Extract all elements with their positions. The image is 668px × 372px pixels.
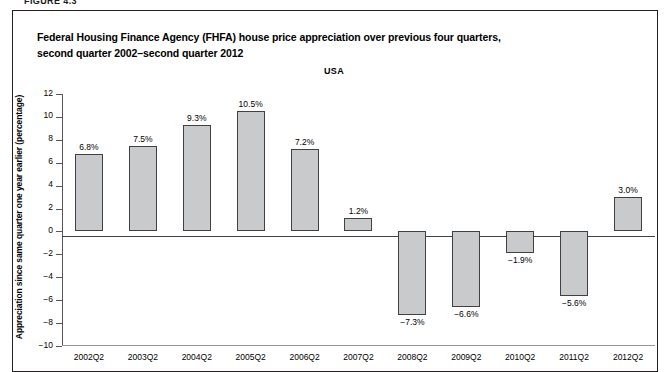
bar-slot: −6.6%2009Q2 <box>439 94 493 346</box>
y-tick: 12 <box>56 94 62 95</box>
y-tick: 8 <box>56 140 62 141</box>
bar-slot: 1.2%2007Q2 <box>332 94 386 346</box>
y-tick: 0 <box>56 231 62 232</box>
x-tick-label: 2009Q2 <box>451 352 481 362</box>
bar-slot: −1.9%2010Q2 <box>493 94 547 346</box>
y-tick: −4 <box>56 277 62 278</box>
bar-value-label: 1.2% <box>349 206 368 216</box>
bar[interactable] <box>75 154 103 232</box>
bar-value-label: −1.9% <box>508 255 532 265</box>
chart-title-line2: second quarter 2002–second quarter 2012 <box>37 46 557 62</box>
y-tick: 2 <box>56 209 62 210</box>
y-tick-label: 0 <box>48 225 53 235</box>
bar-slot: 7.2%2006Q2 <box>278 94 332 346</box>
bar[interactable] <box>506 231 534 253</box>
bar[interactable] <box>560 231 588 295</box>
y-tick: 4 <box>56 186 62 187</box>
y-tick-label: −10 <box>39 340 53 350</box>
y-tick: −10 <box>56 346 62 347</box>
bar-value-label: 9.3% <box>187 113 206 123</box>
y-tick: −6 <box>56 300 62 301</box>
bar[interactable] <box>237 111 265 231</box>
bar[interactable] <box>129 146 157 232</box>
series-label-usa: USA <box>0 66 668 76</box>
y-tick-label: −6 <box>43 294 53 304</box>
x-tick-label: 2002Q2 <box>74 352 104 362</box>
bar-value-label: −5.6% <box>562 298 586 308</box>
bar-slot: 3.0%2012Q2 <box>601 94 655 346</box>
bar-value-label: 7.2% <box>295 137 314 147</box>
x-tick-label: 2007Q2 <box>343 352 373 362</box>
x-tick-label: 2004Q2 <box>182 352 212 362</box>
y-tick-label: 2 <box>48 202 53 212</box>
x-tick-label: 2012Q2 <box>613 352 643 362</box>
bar-slot: 6.8%2002Q2 <box>62 94 116 346</box>
chart-title: Federal Housing Finance Agency (FHFA) ho… <box>37 30 557 61</box>
bars-container: 6.8%2002Q27.5%2003Q29.3%2004Q210.5%2005Q… <box>62 94 655 346</box>
bar[interactable] <box>291 149 319 231</box>
x-tick-label: 2008Q2 <box>397 352 427 362</box>
plot-area: 6.8%2002Q27.5%2003Q29.3%2004Q210.5%2005Q… <box>62 94 655 346</box>
bar-slot: 10.5%2005Q2 <box>224 94 278 346</box>
bar-slot: 9.3%2004Q2 <box>170 94 224 346</box>
y-tick: 10 <box>56 117 62 118</box>
x-tick-label: 2003Q2 <box>128 352 158 362</box>
y-tick-label: 6 <box>48 156 53 166</box>
x-tick-label: 2005Q2 <box>236 352 266 362</box>
y-tick-label: −8 <box>43 317 53 327</box>
bar-value-label: 10.5% <box>239 99 263 109</box>
y-tick-label: −2 <box>43 248 53 258</box>
y-tick: −8 <box>56 323 62 324</box>
bar[interactable] <box>344 218 372 232</box>
bar-slot: 7.5%2003Q2 <box>116 94 170 346</box>
bar[interactable] <box>398 231 426 315</box>
bar-value-label: 6.8% <box>79 142 98 152</box>
y-tick-label: 8 <box>48 133 53 143</box>
y-tick-label: 10 <box>44 110 53 120</box>
x-tick-label: 2006Q2 <box>289 352 319 362</box>
bar-slot: −5.6%2011Q2 <box>547 94 601 346</box>
bar[interactable] <box>452 231 480 307</box>
y-tick: −2 <box>56 254 62 255</box>
figure-number: FIGURE 4.3 <box>24 0 77 5</box>
x-tick-label: 2010Q2 <box>505 352 535 362</box>
y-tick-label: −4 <box>43 271 53 281</box>
y-axis-title: Appreciation since same quarter one year… <box>14 92 24 342</box>
bar[interactable] <box>614 197 642 231</box>
bar-value-label: −6.6% <box>454 309 478 319</box>
bar-value-label: 7.5% <box>133 134 152 144</box>
bar-value-label: 3.0% <box>618 185 637 195</box>
chart-title-line1: Federal Housing Finance Agency (FHFA) ho… <box>37 31 501 43</box>
y-tick: 6 <box>56 163 62 164</box>
y-tick-label: 12 <box>44 88 53 98</box>
bar[interactable] <box>183 125 211 232</box>
y-tick-label: 4 <box>48 179 53 189</box>
x-tick-label: 2011Q2 <box>559 352 589 362</box>
bar-slot: −7.3%2008Q2 <box>385 94 439 346</box>
bar-value-label: −7.3% <box>400 317 424 327</box>
